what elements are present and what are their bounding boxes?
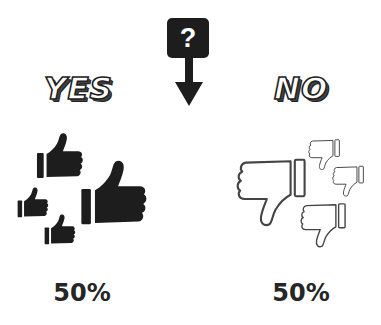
thumbs-down-icon xyxy=(236,155,306,229)
thumbs-down-icon xyxy=(300,200,346,250)
thumbs-up-icon xyxy=(80,156,148,230)
yes-label: YES xyxy=(44,70,113,106)
arrow-down-icon xyxy=(175,56,203,108)
thumbs-down-icon xyxy=(332,163,364,199)
no-percentage: 50% xyxy=(246,279,356,307)
yes-percentage: 50% xyxy=(27,279,137,307)
question-box: ? xyxy=(167,18,209,58)
thumbs-up-icon xyxy=(36,131,84,181)
no-label: NO xyxy=(274,70,328,106)
poll-graphic: ? YES NO 50% 50% xyxy=(0,0,381,325)
thumbs-up-icon xyxy=(44,213,76,246)
question-mark: ? xyxy=(180,23,197,53)
